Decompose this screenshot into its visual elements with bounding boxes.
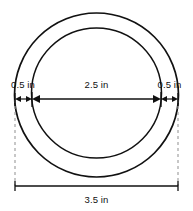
label-outer-diameter: 3.5 in bbox=[85, 194, 109, 205]
left-band-arrow-start bbox=[15, 96, 21, 102]
inner-circle bbox=[32, 28, 162, 158]
inner-diameter-arrow-start bbox=[32, 95, 40, 103]
outer-circle bbox=[15, 13, 179, 177]
dimension-right-band bbox=[161, 96, 178, 102]
inner-diameter-arrow-end bbox=[153, 95, 161, 103]
label-right-band: 0.5 in bbox=[158, 79, 182, 90]
ring-diagram-figure: Concentric circles ring diagram with dim… bbox=[0, 0, 193, 211]
dimension-inner-diameter bbox=[32, 95, 161, 103]
dimension-outer-diameter bbox=[15, 181, 178, 191]
diagram-canvas: Concentric circles ring diagram with dim… bbox=[0, 0, 193, 211]
dimension-left-band bbox=[15, 96, 32, 102]
label-left-band: 0.5 in bbox=[11, 79, 35, 90]
right-band-arrow-end bbox=[172, 96, 178, 102]
label-inner-diameter: 2.5 in bbox=[85, 79, 109, 90]
